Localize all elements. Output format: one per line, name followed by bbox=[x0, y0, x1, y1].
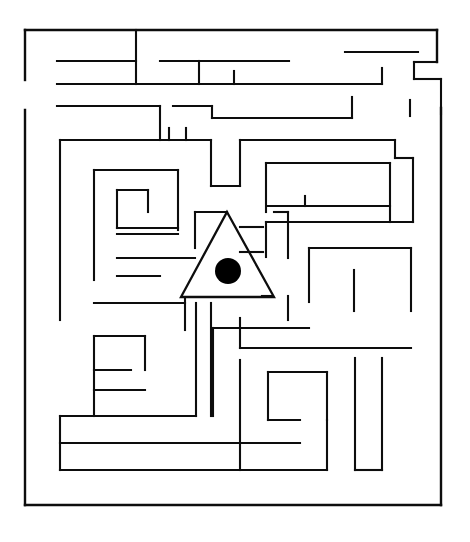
filled-circle-marker bbox=[215, 258, 241, 284]
maze-drawing bbox=[0, 0, 470, 542]
maze-canvas bbox=[0, 0, 470, 542]
